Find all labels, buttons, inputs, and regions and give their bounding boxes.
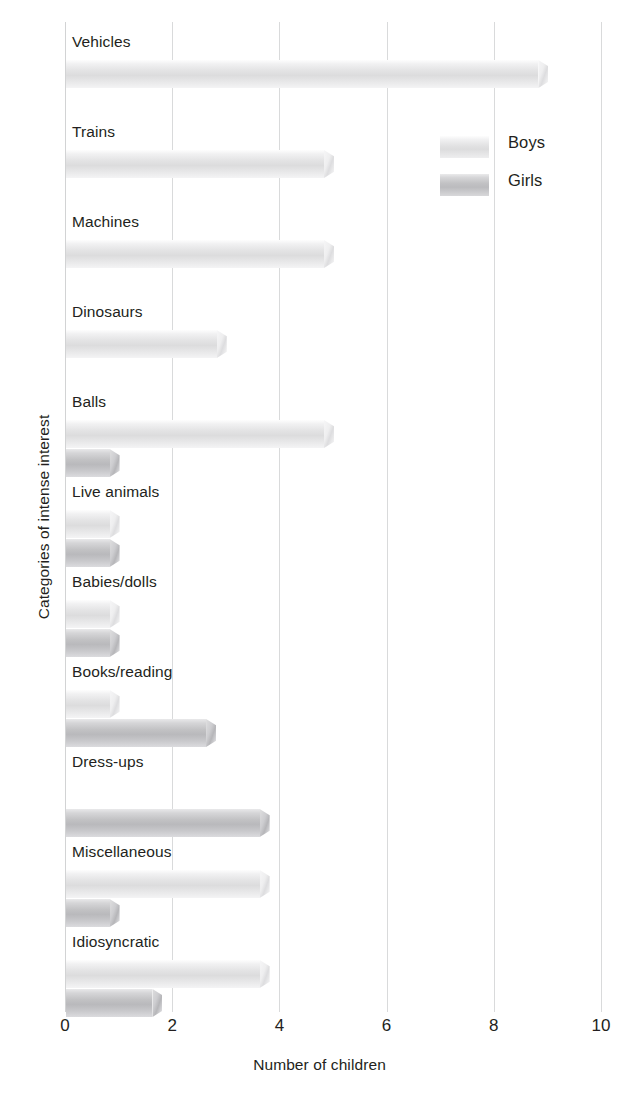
bar-girls-8 xyxy=(66,809,270,837)
bar-end-cap xyxy=(538,60,548,88)
y-axis-title: Categories of intense interest xyxy=(35,387,53,647)
bar-girls-7 xyxy=(66,719,216,747)
bar-end-cap xyxy=(110,600,120,628)
bar-body xyxy=(66,60,538,88)
x-tick-label-4: 4 xyxy=(275,1016,284,1036)
bar-body xyxy=(66,899,110,927)
bar-girls-5 xyxy=(66,539,120,567)
legend-item-girls[interactable]: Girls xyxy=(440,171,600,201)
bar-body xyxy=(66,870,260,898)
x-tick-label-6: 6 xyxy=(382,1016,391,1036)
boys-swatch-icon xyxy=(440,136,489,158)
category-label: Trains xyxy=(72,123,115,141)
bar-body xyxy=(66,330,217,358)
bar-body xyxy=(66,960,260,988)
legend-label-girls: Girls xyxy=(508,171,542,190)
bar-boys-5 xyxy=(66,510,120,538)
bar-end-cap xyxy=(217,330,227,358)
bar-body xyxy=(66,719,206,747)
x-axis-title: Number of children xyxy=(0,1056,639,1074)
x-tick-label-8: 8 xyxy=(489,1016,498,1036)
bar-end-cap xyxy=(260,960,270,988)
bar-end-cap xyxy=(260,809,270,837)
category-label: Books/reading xyxy=(72,663,172,681)
x-tick-label-0: 0 xyxy=(60,1016,69,1036)
bar-body xyxy=(66,690,110,718)
legend-item-boys[interactable]: Boys xyxy=(440,133,600,163)
bar-girls-6 xyxy=(66,629,120,657)
category-label: Live animals xyxy=(72,483,159,501)
x-tick-label-10: 10 xyxy=(592,1016,611,1036)
category-label: Miscellaneous xyxy=(72,843,172,861)
bar-body xyxy=(66,629,110,657)
bar-boys-3 xyxy=(66,330,227,358)
bar-end-cap xyxy=(324,150,334,178)
bar-body xyxy=(66,420,324,448)
bar-end-cap xyxy=(152,989,162,1017)
bar-chart: Categories of intense interest VehiclesT… xyxy=(0,0,639,1099)
bar-body xyxy=(66,150,324,178)
bar-boys-10 xyxy=(66,960,270,988)
legend: Boys Girls xyxy=(440,133,600,209)
bar-girls-4 xyxy=(66,449,120,477)
bar-body xyxy=(66,989,152,1017)
bar-girls-9 xyxy=(66,899,120,927)
bar-end-cap xyxy=(206,719,216,747)
girls-swatch-icon xyxy=(440,174,489,196)
bar-end-cap xyxy=(260,870,270,898)
bar-boys-2 xyxy=(66,240,334,268)
gridline-x-6 xyxy=(387,22,388,1012)
bar-end-cap xyxy=(110,629,120,657)
bar-end-cap xyxy=(324,420,334,448)
bar-end-cap xyxy=(110,899,120,927)
x-tick-label-2: 2 xyxy=(167,1016,176,1036)
bar-girls-10 xyxy=(66,989,162,1017)
bar-end-cap xyxy=(324,240,334,268)
bar-boys-7 xyxy=(66,690,120,718)
bar-end-cap xyxy=(110,539,120,567)
category-label: Babies/dolls xyxy=(72,573,157,591)
bar-body xyxy=(66,539,110,567)
category-label: Idiosyncratic xyxy=(72,933,159,951)
bar-body xyxy=(66,449,110,477)
bar-boys-0 xyxy=(66,60,548,88)
category-label: Machines xyxy=(72,213,139,231)
bar-boys-9 xyxy=(66,870,270,898)
bar-end-cap xyxy=(110,510,120,538)
bar-body xyxy=(66,600,110,628)
bar-body xyxy=(66,510,110,538)
category-label: Balls xyxy=(72,393,106,411)
bar-end-cap xyxy=(110,690,120,718)
bar-boys-1 xyxy=(66,150,334,178)
category-label: Dress-ups xyxy=(72,753,144,771)
bar-body xyxy=(66,809,260,837)
bar-body xyxy=(66,240,324,268)
category-label: Dinosaurs xyxy=(72,303,143,321)
gridline-x-10 xyxy=(601,22,602,1012)
bar-end-cap xyxy=(110,449,120,477)
bar-boys-4 xyxy=(66,420,334,448)
bar-boys-6 xyxy=(66,600,120,628)
category-label: Vehicles xyxy=(72,33,131,51)
legend-label-boys: Boys xyxy=(508,133,545,152)
